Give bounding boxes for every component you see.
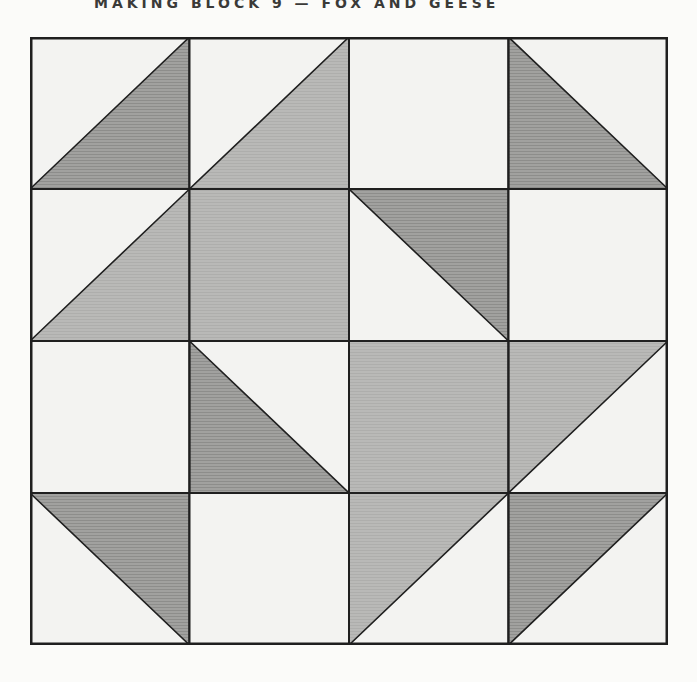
block-cell-r3c3 [509,493,669,645]
block-cell-r3c2 [349,493,509,645]
block-cell-r0c1 [190,37,350,189]
block-cell-r2c1 [190,341,350,493]
book-page: { "page": { "title": "MAKING BLOCK 9 — F… [0,0,697,682]
block-cell-r1c3 [509,189,669,341]
block-cell-r0c3 [509,37,669,189]
block-cell-r1c2 [349,189,509,341]
block-cell-r0c2 [349,37,509,189]
fox-and-geese-quilt-block [30,37,668,645]
quilt-block-diagram [30,37,668,645]
block-cell-r2c3 [509,341,669,493]
block-cell-r0c0 [30,37,190,189]
block-cell-r3c0 [30,493,190,645]
block-cell-r1c0 [30,189,190,341]
page-title: MAKING BLOCK 9 — FOX AND GEESE [94,0,499,11]
block-cell-r2c2 [349,341,509,493]
block-cell-r2c0 [30,341,190,493]
block-cell-r3c1 [190,493,350,645]
block-cell-r1c1 [190,189,350,341]
